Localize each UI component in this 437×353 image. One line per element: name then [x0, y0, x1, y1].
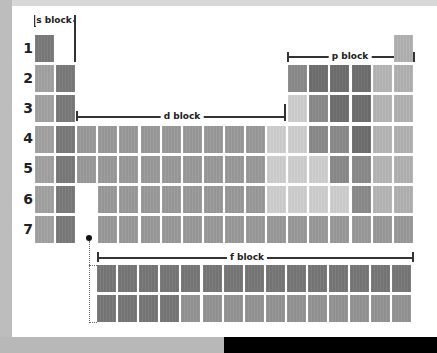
element-cell — [162, 186, 181, 213]
element-cell — [394, 216, 413, 243]
element-cell — [77, 126, 96, 153]
row-label-6: 6 — [22, 186, 34, 213]
element-cell — [246, 126, 265, 153]
f-block-cell — [139, 265, 158, 292]
element-cell — [225, 156, 244, 183]
f-block-cell — [392, 265, 411, 292]
element-cell — [119, 126, 138, 153]
element-cell — [225, 186, 244, 213]
element-cell — [35, 126, 54, 153]
element-cell — [394, 186, 413, 213]
element-cell — [56, 156, 75, 183]
element-cell — [309, 186, 328, 213]
element-cell — [330, 216, 349, 243]
f-block-cell — [287, 295, 306, 322]
f-block-cell — [118, 265, 137, 292]
element-cell — [56, 126, 75, 153]
element-cell — [141, 156, 160, 183]
element-cell — [204, 186, 223, 213]
row-label-2: 2 — [22, 65, 34, 92]
f-block-cell — [308, 265, 327, 292]
element-cell — [394, 65, 413, 92]
row-label-5: 5 — [22, 155, 34, 182]
element-cell — [352, 65, 371, 92]
element-cell — [77, 156, 96, 183]
element-cell — [183, 186, 202, 213]
element-cell — [204, 156, 223, 183]
element-cell — [119, 216, 138, 243]
element-cell — [98, 186, 117, 213]
element-cell — [267, 216, 286, 243]
element-cell — [352, 126, 371, 153]
f-block-cell — [371, 265, 390, 292]
f-block-cell — [371, 295, 390, 322]
f-block-cell — [139, 295, 158, 322]
element-cell — [35, 65, 54, 92]
element-cell — [98, 126, 117, 153]
element-cell — [373, 65, 392, 92]
f-block-cell — [329, 295, 348, 322]
element-cell — [267, 186, 286, 213]
f-block-cell — [392, 295, 411, 322]
element-cell — [309, 216, 328, 243]
element-cell — [373, 186, 392, 213]
element-cell — [56, 186, 75, 213]
element-cell — [246, 216, 265, 243]
element-cell — [56, 95, 75, 122]
element-cell — [394, 156, 413, 183]
f-block-cell — [329, 265, 348, 292]
element-cell — [288, 65, 307, 92]
p-block-label: p block — [329, 50, 372, 62]
f-block-cell — [181, 295, 200, 322]
element-cell — [35, 216, 54, 243]
bottom-black-strip — [224, 337, 437, 353]
element-cell — [288, 216, 307, 243]
element-cell — [246, 186, 265, 213]
element-cell — [56, 216, 75, 243]
element-cell — [204, 216, 223, 243]
f-block-cell — [245, 265, 264, 292]
element-cell — [204, 126, 223, 153]
row-label-3: 3 — [22, 95, 34, 122]
element-cell — [162, 126, 181, 153]
element-cell — [183, 156, 202, 183]
f-block-cell — [245, 295, 264, 322]
row-label-4: 4 — [22, 125, 34, 152]
f-block-cell — [350, 265, 369, 292]
element-cell — [141, 216, 160, 243]
element-cell — [309, 156, 328, 183]
element-cell — [56, 65, 75, 92]
f-block-cell — [160, 295, 179, 322]
f-block-cell — [160, 265, 179, 292]
bottom-gray-strip — [0, 337, 224, 353]
f-block-cell — [203, 265, 222, 292]
element-cell — [35, 95, 54, 122]
element-cell — [225, 126, 244, 153]
element-cell — [373, 126, 392, 153]
element-cell — [141, 186, 160, 213]
element-cell — [330, 95, 349, 122]
f-block-cell — [224, 295, 243, 322]
element-cell — [373, 95, 392, 122]
d-block-label: d block — [161, 110, 204, 122]
element-cell — [246, 156, 265, 183]
element-cell — [225, 216, 244, 243]
element-cell — [183, 216, 202, 243]
f-block-cell — [287, 265, 306, 292]
f-block-cell — [308, 295, 327, 322]
element-cell — [394, 95, 413, 122]
f-block-cell — [203, 295, 222, 322]
element-cell — [330, 186, 349, 213]
f-block-connector-bottom — [89, 322, 97, 323]
element-cell — [352, 95, 371, 122]
element-cell — [162, 156, 181, 183]
element-cell — [394, 126, 413, 153]
f-block-cell — [118, 295, 137, 322]
element-cell — [35, 35, 54, 62]
f-block-cell — [181, 265, 200, 292]
element-cell — [141, 126, 160, 153]
element-cell — [288, 186, 307, 213]
f-block-label: f block — [227, 251, 267, 263]
f-block-cell — [97, 295, 116, 322]
f-block-cell — [224, 265, 243, 292]
